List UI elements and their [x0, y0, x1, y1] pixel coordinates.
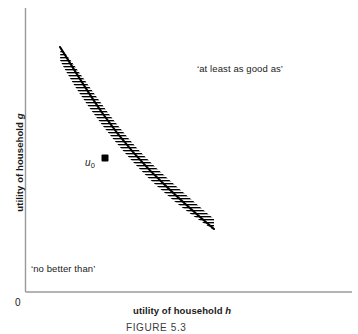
annotation-at-least-as-good-as: ‘at least as good as’ — [197, 63, 283, 74]
x-axis-label-variable: h — [225, 305, 231, 316]
figure-caption: FIGURE 5.3 — [126, 322, 186, 333]
y-axis-label: utility of household g — [14, 103, 25, 223]
curve-label-u0-subscript: 0 — [91, 161, 95, 170]
annotation-no-better-than: ‘no better than’ — [31, 263, 95, 274]
x-axis-label: utility of household h — [133, 305, 231, 316]
curve-label-u0: u0 — [85, 157, 95, 170]
plot-area — [0, 0, 358, 334]
x-axis-label-text: utility of household — [133, 305, 225, 316]
origin-label: 0 — [15, 297, 21, 308]
y-axis-label-variable: g — [14, 113, 25, 119]
y-axis-label-text: utility of household — [14, 119, 25, 211]
figure-container: ‘at least as good as’ ‘no better than’ u… — [0, 0, 358, 334]
u0-marker-dot — [102, 155, 109, 162]
